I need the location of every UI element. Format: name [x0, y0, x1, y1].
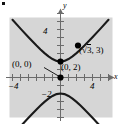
x-tick-label-neg4: −4 — [8, 82, 19, 91]
sqrt3-label-suffix: , 3) — [91, 45, 103, 55]
x-axis-label: x — [114, 73, 118, 81]
point-origin — [57, 74, 63, 80]
y-tick-label-neg2: −2 — [41, 90, 52, 99]
x-tick-label-4: 4 — [90, 82, 95, 91]
corner-mark-icon — [2, 2, 5, 5]
y-axis-label: y — [63, 2, 67, 10]
origin-point-label: (0, 0) — [12, 60, 32, 69]
y-tick-label-4: 4 — [43, 27, 48, 36]
hyperbola-figure: x y 4 −2 −4 4 (0, 0) (0, 2) (√3, 3) — [0, 0, 121, 124]
sqrt3-point-label: (√3, 3) — [79, 46, 103, 55]
vertex-point-label: (0, 2) — [61, 63, 81, 72]
